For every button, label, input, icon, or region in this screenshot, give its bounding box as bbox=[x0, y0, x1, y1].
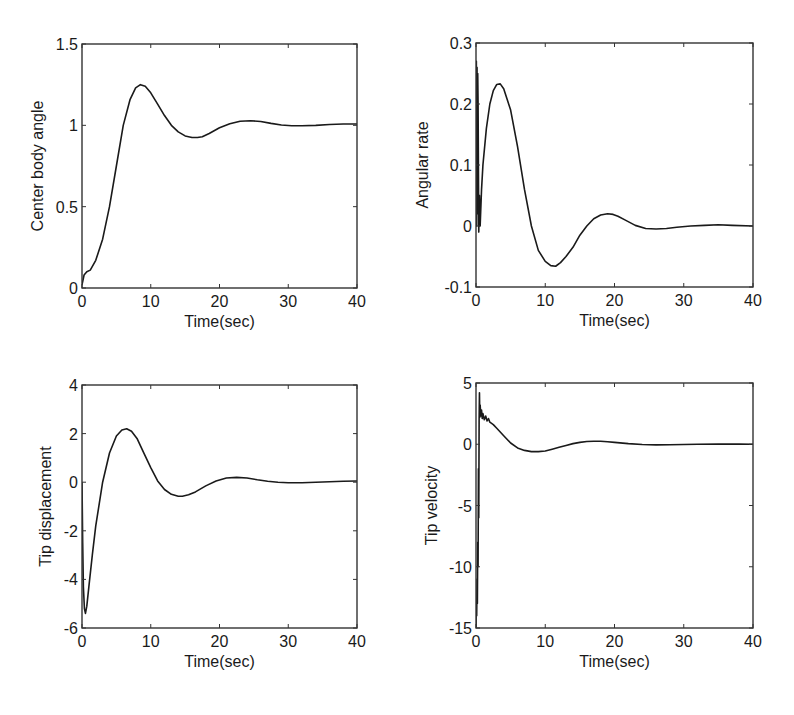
y-tick-label: 0.2 bbox=[450, 96, 472, 113]
x-axis-label: Time(sec) bbox=[184, 313, 255, 330]
y-tick-label: 1.5 bbox=[56, 36, 78, 53]
x-tick-label: 0 bbox=[472, 292, 481, 309]
x-tick-label: 10 bbox=[536, 633, 554, 650]
axes-box bbox=[476, 383, 753, 628]
y-tick-label: 0 bbox=[463, 218, 472, 235]
x-tick-label: 20 bbox=[211, 633, 229, 650]
axes-box bbox=[82, 44, 357, 288]
subplot-tip-velocity: 010203040-15-10-505Time(sec)Tip velocity bbox=[423, 375, 763, 670]
y-tick-label: -5 bbox=[458, 498, 472, 515]
y-axis-label: Tip velocity bbox=[423, 466, 440, 545]
x-tick-label: 40 bbox=[348, 293, 366, 310]
y-tick-label: 2 bbox=[69, 426, 78, 443]
x-tick-label: 20 bbox=[211, 293, 229, 310]
series-line bbox=[476, 61, 753, 266]
x-tick-label: 0 bbox=[78, 633, 87, 650]
x-tick-label: 10 bbox=[142, 293, 160, 310]
subplot-angular-rate: 010203040-0.100.10.20.3Time(sec)Angular … bbox=[414, 35, 762, 329]
y-tick-label: 0 bbox=[69, 474, 78, 491]
series-line bbox=[82, 85, 357, 285]
x-axis-label: Time(sec) bbox=[579, 312, 650, 329]
subplot-tip-displacement: 010203040-6-4-2024Time(sec)Tip displacem… bbox=[37, 377, 366, 670]
subplot-center-body-angle: 01020304000.511.5Time(sec)Center body an… bbox=[29, 36, 367, 330]
y-tick-label: -2 bbox=[64, 523, 78, 540]
y-tick-label: 5 bbox=[463, 375, 472, 392]
y-tick-label: 0.3 bbox=[450, 35, 472, 52]
y-tick-label: 0 bbox=[69, 280, 78, 297]
y-tick-label: -4 bbox=[64, 571, 78, 588]
x-tick-label: 30 bbox=[675, 633, 693, 650]
series-line bbox=[476, 393, 753, 628]
series-line bbox=[82, 429, 357, 614]
x-tick-label: 0 bbox=[78, 293, 87, 310]
x-tick-label: 20 bbox=[606, 292, 624, 309]
y-tick-label: -6 bbox=[64, 620, 78, 637]
y-tick-label: 0 bbox=[463, 436, 472, 453]
x-tick-label: 10 bbox=[536, 292, 554, 309]
y-tick-label: -0.1 bbox=[444, 279, 472, 296]
x-axis-label: Time(sec) bbox=[579, 653, 650, 670]
y-tick-label: 1 bbox=[69, 117, 78, 134]
x-tick-label: 0 bbox=[472, 633, 481, 650]
x-tick-label: 30 bbox=[279, 293, 297, 310]
y-tick-label: 4 bbox=[69, 377, 78, 394]
axes-box bbox=[82, 385, 357, 628]
y-axis-label: Center body angle bbox=[29, 101, 46, 232]
y-tick-label: 0.1 bbox=[450, 157, 472, 174]
y-tick-label: 0.5 bbox=[56, 199, 78, 216]
axes-box bbox=[476, 43, 753, 287]
x-tick-label: 40 bbox=[348, 633, 366, 650]
x-tick-label: 10 bbox=[142, 633, 160, 650]
y-axis-label: Tip displacement bbox=[37, 446, 54, 567]
figure: 01020304000.511.5Time(sec)Center body an… bbox=[0, 0, 794, 715]
x-tick-label: 20 bbox=[606, 633, 624, 650]
x-tick-label: 40 bbox=[744, 633, 762, 650]
y-tick-label: -15 bbox=[449, 620, 472, 637]
x-tick-label: 40 bbox=[744, 292, 762, 309]
x-tick-label: 30 bbox=[675, 292, 693, 309]
y-axis-label: Angular rate bbox=[414, 121, 431, 208]
y-tick-label: -10 bbox=[449, 559, 472, 576]
x-tick-label: 30 bbox=[279, 633, 297, 650]
x-axis-label: Time(sec) bbox=[184, 653, 255, 670]
